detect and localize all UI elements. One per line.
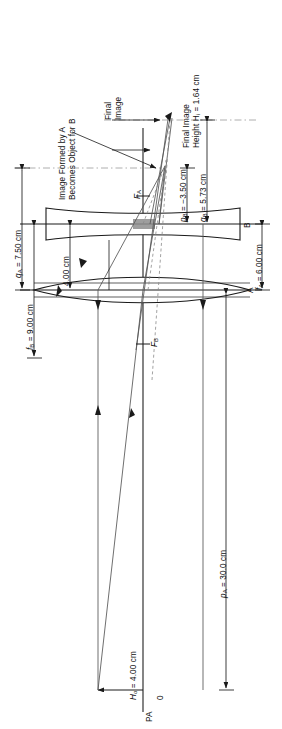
label-dim-fb: fB = 9.00 cm: [26, 304, 36, 350]
label-dim-pb: pB = −3.50 cm: [179, 169, 189, 222]
label-dim-pa: pA = 30.0 cm: [219, 550, 229, 598]
ray-direction-arrow-6: [79, 258, 87, 268]
label-dim-fa: fA = 6.00 cm: [255, 244, 265, 290]
ray-direction-arrow-4: [95, 405, 101, 415]
label-principal-axis: PA: [145, 711, 155, 722]
label-focal-point-a: FA: [133, 190, 143, 199]
label-origin: 0: [156, 695, 166, 700]
ray-direction-arrow-2: [200, 300, 206, 310]
label-final-image: Final Image: [104, 97, 123, 120]
lens-b-center-marker: [133, 219, 155, 229]
ray-direction-arrow-1: [95, 300, 101, 310]
label-dim-separation: 4.00 cm: [62, 256, 72, 286]
label-final-image-height: Final Image Height Hi = 1.64 cm: [182, 74, 202, 148]
label-focal-point-b: FB: [150, 338, 160, 347]
dashed-projection-lines: [14, 120, 258, 168]
arrowheads-on-rays: [56, 112, 206, 418]
ray-out-of-lens-B-2: [150, 118, 170, 224]
label-dim-qa: qA = 7.50 cm: [14, 230, 24, 278]
ray-diagram-figure: Image Formed by A Becomes Object for B F…: [0, 0, 282, 729]
label-lens-a: A: [246, 287, 256, 293]
final-image-arrowhead: [165, 112, 172, 122]
label-lens-b: B: [243, 222, 253, 228]
lens-b-group: [20, 208, 262, 240]
label-dim-qb: qB = 5.73 cm: [199, 174, 209, 222]
leader-lines: [72, 120, 160, 290]
label-image-formed-by-a: Image Formed by A Becomes Object for B: [58, 118, 77, 200]
label-dim-ho: Ho = 4.00 cm: [129, 651, 139, 700]
diagram-canvas: [0, 0, 282, 729]
